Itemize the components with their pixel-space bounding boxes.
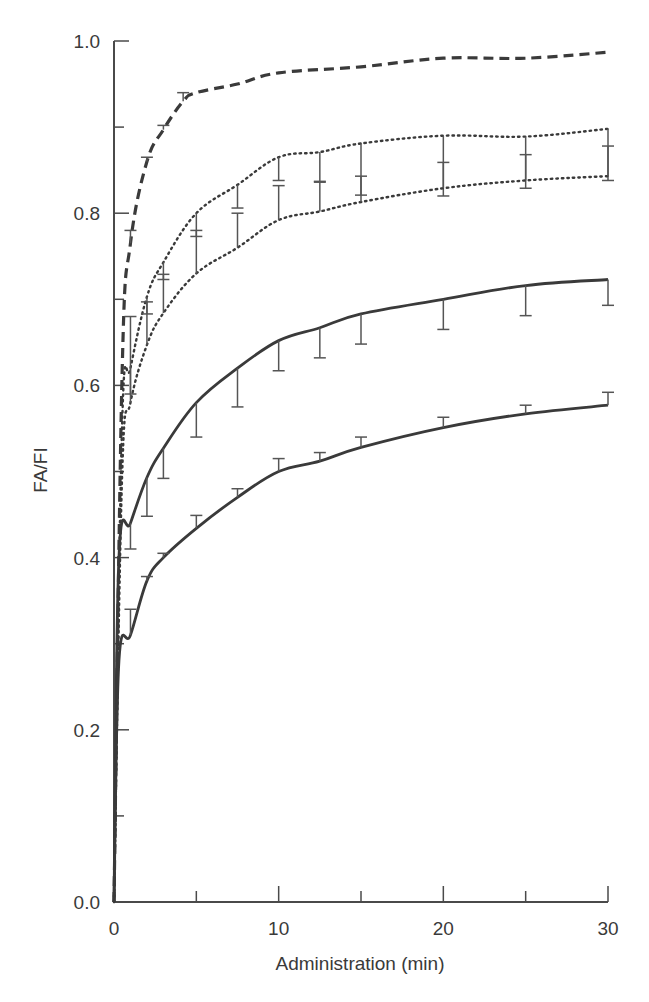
y-tick-label: 0.2 [74, 720, 100, 741]
series-dotted-upper [114, 129, 614, 902]
line-solid-lower [114, 405, 608, 902]
series-group [114, 52, 614, 902]
series-solid-lower [114, 392, 614, 902]
series-solid-upper [114, 279, 614, 902]
x-tick-label: 0 [109, 918, 120, 939]
y-tick-label: 0.4 [74, 548, 101, 569]
x-tick-label: 20 [433, 918, 454, 939]
y-tick-label: 1.0 [74, 31, 100, 52]
y-tick-label: 0.0 [74, 892, 100, 913]
x-axis-title: Administration (min) [276, 953, 445, 974]
y-axis-title: FA/FI [30, 447, 51, 492]
x-tick-label: 30 [597, 918, 618, 939]
y-tick-label: 0.8 [74, 203, 100, 224]
line-chart: 0.00.20.40.60.81.00102030 Administration… [0, 0, 649, 1002]
line-solid-upper [114, 279, 608, 902]
axes: 0.00.20.40.60.81.00102030 [74, 31, 619, 939]
x-tick-label: 10 [268, 918, 289, 939]
series-dotted-lower [114, 146, 614, 902]
line-dotted-upper [114, 129, 608, 902]
y-tick-label: 0.6 [74, 375, 100, 396]
